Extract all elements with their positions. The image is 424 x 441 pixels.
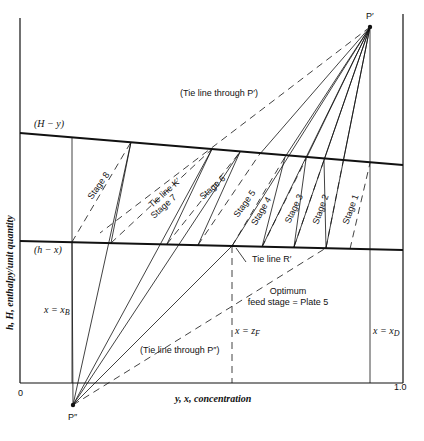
x-tick-0: 0 — [18, 388, 23, 398]
tie-line-through-p-double-prime — [73, 248, 326, 405]
optimum-label-line2: feed stage = Plate 5 — [248, 297, 328, 307]
label-tie-line-p-double-prime: (Tie line through P″) — [140, 345, 219, 355]
label-tie-line-r: Tie line R′ — [252, 254, 292, 264]
tie-line-through-p-prime — [100, 27, 370, 233]
liquid-line — [20, 241, 403, 250]
y-axis-label: h, H, enthalpy/unit quantity — [4, 215, 15, 330]
label-vapor-line: (H − y) — [34, 118, 65, 130]
label-p-prime: P′ — [366, 11, 374, 21]
x-tick-1: 1.0 — [394, 382, 407, 392]
label-x-b: x = xB — [43, 304, 70, 317]
label-stage-6: Stage 6 — [198, 173, 228, 201]
tie-line-r-pointer — [236, 248, 246, 262]
enthalpy-concentration-diagram: P′ P″ (H − y) (h − x) 0 1.0 y, x, concen… — [0, 0, 424, 441]
optimum-label-line1: Optimum — [270, 286, 307, 296]
label-stage-1: Stage 1 — [340, 193, 360, 226]
point-p-double-prime — [71, 403, 75, 407]
label-p-double-prime: P″ — [68, 412, 78, 422]
label-liquid-line: (h − x) — [34, 244, 63, 256]
label-x-d: x = xD — [372, 325, 400, 338]
label-stage-2: Stage 2 — [310, 193, 330, 226]
point-p-prime — [368, 25, 372, 29]
x-axis-label: y, x, concentration — [174, 393, 252, 404]
label-tie-line-p-prime: (Tie line through P′) — [180, 88, 258, 98]
label-z-f: x = zF — [234, 325, 260, 338]
